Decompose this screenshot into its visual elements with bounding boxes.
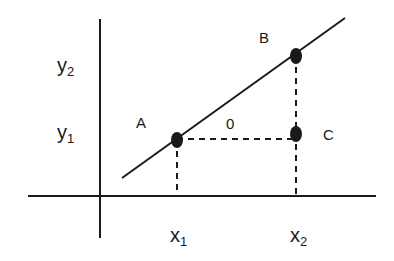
point-b	[290, 48, 302, 64]
sloped-line	[122, 18, 345, 178]
slope-diagram: ABC0y2y1x1x2	[0, 0, 394, 261]
point-label-a: A	[136, 114, 146, 131]
x-axis-label-x2: x2	[290, 224, 307, 249]
point-label-b: B	[259, 29, 269, 46]
y-axis-label-y1: y1	[57, 121, 74, 146]
x-axis-label-x1: x1	[170, 224, 187, 249]
point-c	[290, 126, 302, 142]
interior-label: 0	[226, 115, 234, 132]
point-label-c: C	[323, 126, 334, 143]
point-a	[171, 132, 183, 148]
y-axis-label-y2: y2	[57, 54, 74, 79]
